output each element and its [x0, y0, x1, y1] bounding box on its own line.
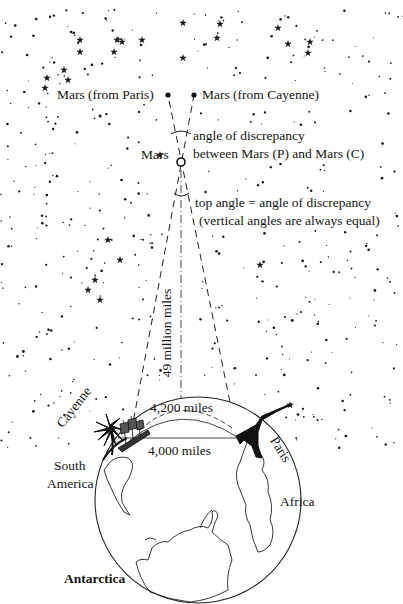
label-angle-of-discrepancy: angle of discrepancy — [193, 128, 305, 144]
angle-arc-top — [171, 131, 191, 134]
label-mars-from-cayenne: Mars (from Cayenne) — [202, 87, 319, 103]
label-49-million-miles: 49 million miles — [159, 278, 175, 388]
label-antarctica: Antarctica — [64, 571, 125, 587]
label-4000-miles: 4,000 miles — [148, 443, 211, 459]
label-top-angle: top angle = angle of discrepancy — [195, 195, 371, 211]
label-africa: Africa — [280, 494, 314, 510]
mars-from-paris-dot — [165, 92, 170, 97]
star-field — [0, 9, 403, 449]
mars-planet — [177, 158, 185, 166]
mars-from-cayenne-dot — [191, 92, 196, 97]
label-vertical-angles: (vertical angles are always equal) — [199, 213, 380, 229]
label-mars-from-paris: Mars (from Paris) — [57, 87, 154, 103]
label-south: South — [54, 458, 86, 474]
label-mars: Mars — [141, 147, 169, 163]
label-america: America — [47, 476, 93, 492]
angle-arc-bottom — [174, 193, 189, 196]
label-angle-between: between Mars (P) and Mars (C) — [193, 146, 364, 162]
label-4200-miles: 4,200 miles — [150, 400, 213, 416]
